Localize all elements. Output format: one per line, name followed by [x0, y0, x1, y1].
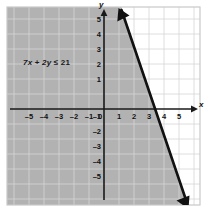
- y-axis-label: y: [99, 0, 103, 9]
- y-tick--1: –1: [86, 112, 101, 121]
- y-tick-3: 3: [89, 45, 101, 54]
- y-tick-1: 1: [89, 75, 101, 84]
- y-tick--4: –4: [86, 157, 101, 166]
- x-tick--2: –2: [67, 112, 81, 121]
- x-tick--4: –4: [37, 112, 51, 121]
- x-tick-5: 5: [173, 112, 185, 121]
- x-tick-1: 1: [113, 112, 125, 121]
- x-axis-label: x: [199, 100, 203, 109]
- y-tick--5: –5: [86, 172, 101, 181]
- x-tick--3: –3: [52, 112, 66, 121]
- y-tick-4: 4: [89, 30, 101, 39]
- coordinate-plane: [0, 0, 210, 220]
- graph-figure: 7x + 2y ≤ 21 x y –5 –4 –3 –2 –1 0 1 2 3 …: [0, 0, 210, 220]
- x-tick-3: 3: [143, 112, 155, 121]
- y-tick--2: –2: [86, 127, 101, 136]
- inequality-label: 7x + 2y ≤ 21: [23, 58, 70, 67]
- y-tick-2: 2: [89, 60, 101, 69]
- x-tick-2: 2: [128, 112, 140, 121]
- x-tick-4: 4: [158, 112, 170, 121]
- x-tick--5: –5: [22, 112, 36, 121]
- y-tick--3: –3: [86, 142, 101, 151]
- y-tick-5: 5: [89, 15, 101, 24]
